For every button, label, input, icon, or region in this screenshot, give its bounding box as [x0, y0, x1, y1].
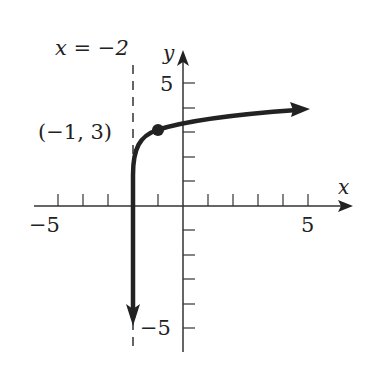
- point-marker: [152, 124, 164, 136]
- y-axis: [177, 50, 195, 352]
- y-tick-pos5: 5: [160, 72, 173, 96]
- curve-right-arrow-icon: [290, 102, 310, 117]
- log-curve: [133, 110, 297, 318]
- x-axis-label: x: [338, 175, 349, 199]
- y-axis-label: y: [162, 41, 175, 65]
- point-label: (−1, 3): [38, 120, 112, 144]
- x-tick-pos5: 5: [301, 213, 314, 237]
- y-tick-neg5: −5: [140, 316, 171, 340]
- asymptote-label: x = −2: [55, 36, 129, 60]
- function-graph: x = −2 (−1, 3) y x −5 5 5 −5: [0, 0, 371, 366]
- x-axis: [34, 194, 353, 212]
- x-tick-neg5: −5: [29, 213, 60, 237]
